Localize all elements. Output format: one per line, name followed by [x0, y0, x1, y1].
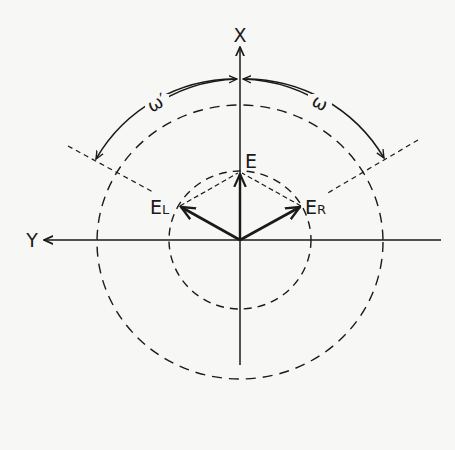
er-label-sub: R	[317, 202, 326, 217]
vector-er	[240, 207, 300, 240]
polarization-diagram: X Y E EL ER ω′ ω	[0, 0, 455, 450]
er-to-e-dashed	[242, 173, 301, 206]
right-rotation-guide	[326, 140, 418, 194]
el-label-main: E	[150, 196, 162, 218]
omega-prime-arc	[96, 79, 237, 159]
x-axis-label: X	[233, 24, 246, 46]
e-label: E	[245, 150, 257, 172]
er-label-main: E	[305, 196, 317, 218]
er-label: ER	[305, 196, 326, 218]
el-label-sub: L	[162, 202, 170, 217]
vector-el	[181, 207, 240, 240]
el-label: EL	[150, 196, 170, 218]
omega-arc	[243, 79, 384, 158]
y-axis-label: Y	[25, 229, 38, 251]
